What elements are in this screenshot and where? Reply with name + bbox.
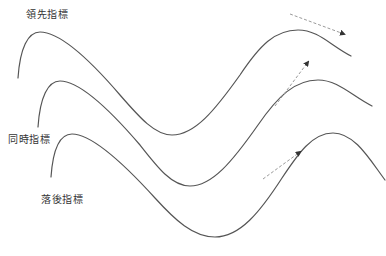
- coincident-indicator-label: 同時指標: [8, 134, 50, 146]
- lagging-indicator-curve: [51, 133, 385, 237]
- lagging-indicator-label: 落後指標: [41, 194, 83, 206]
- coincident-indicator-curve: [38, 80, 372, 186]
- economic-indicators-diagram: 領先指標 同時指標 落後指標: [0, 0, 386, 256]
- leading-trend-arrow-icon: [290, 14, 344, 34]
- coincident-trend-arrow-icon: [275, 62, 308, 106]
- leading-indicator-label: 領先指標: [26, 9, 68, 21]
- curves-canvas: [0, 0, 386, 256]
- lagging-trend-arrow-icon: [263, 152, 300, 179]
